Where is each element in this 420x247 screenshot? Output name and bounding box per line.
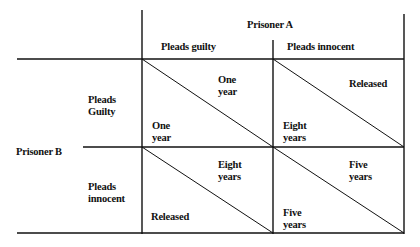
outcome-line2: year [152, 132, 171, 144]
cell-4-a-outcome: Five years [349, 159, 372, 183]
cell-1-b-outcome: One year [152, 120, 171, 144]
grid-lines [0, 0, 420, 247]
row-option-line2: innocent [88, 193, 125, 205]
cell-3-b-outcome: Released [151, 211, 189, 223]
cell-2-b-outcome: Eight years [283, 120, 307, 144]
outcome-line2: year [218, 86, 237, 98]
outcome-line2: years [283, 132, 307, 144]
column-player-label: Prisoner A [247, 19, 293, 31]
outcome-line2: years [283, 219, 306, 231]
outcome-line1: Five [349, 159, 372, 171]
cell-1-a-outcome: One year [218, 74, 237, 98]
row-option-line1: Pleads [88, 181, 125, 193]
cell-3-a-outcome: Eight years [218, 159, 242, 183]
outcome-line1: Five [283, 207, 306, 219]
outcome-line2: years [349, 171, 372, 183]
outcome-line1: One [218, 74, 237, 86]
row-option-line2: Guilty [88, 106, 116, 118]
cell-4-b-outcome: Five years [283, 207, 306, 231]
column-option-pleads-guilty: Pleads guilty [161, 41, 216, 53]
row-option-line1: Pleads [88, 94, 116, 106]
outcome-line1: One [152, 120, 171, 132]
row-option-pleads-innocent: Pleads innocent [88, 181, 125, 205]
outcome-line1: Eight [283, 120, 307, 132]
outcome-line2: years [218, 171, 242, 183]
outcome-line1: Eight [218, 159, 242, 171]
cell-2-a-outcome: Released [349, 78, 387, 90]
column-option-pleads-innocent: Pleads innocent [287, 41, 354, 53]
row-player-label: Prisoner B [16, 146, 62, 158]
row-option-pleads-guilty: Pleads Guilty [88, 94, 116, 118]
